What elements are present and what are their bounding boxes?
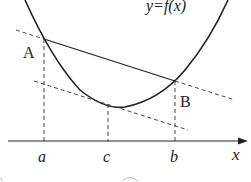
mean-value-diagram: y=f(x) A B a c b x bbox=[0, 0, 251, 181]
curve-f bbox=[25, 0, 228, 107]
cropped-circle-glyph bbox=[122, 178, 138, 182]
point-A-label: A bbox=[23, 44, 35, 61]
cropped-glyph-left bbox=[0, 178, 2, 181]
point-B-label: B bbox=[180, 93, 191, 110]
tick-label-a: a bbox=[38, 148, 46, 165]
curve-label: y=f(x) bbox=[144, 0, 186, 15]
secant-AB bbox=[44, 39, 175, 81]
x-axis-arrow-icon bbox=[238, 138, 248, 145]
tick-label-b: b bbox=[170, 148, 178, 165]
x-axis-label: x bbox=[231, 145, 240, 164]
tick-label-c: c bbox=[103, 148, 110, 165]
